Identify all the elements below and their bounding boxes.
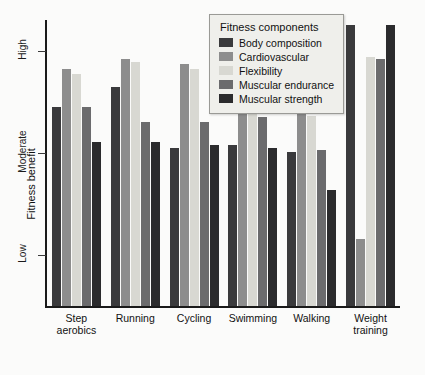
legend-entry: Muscular endurance [219,78,334,91]
bar [366,57,375,306]
bar [376,59,385,306]
bar [141,122,150,306]
fitness-benefit-bar-chart: Fitness benefit HighModerateLow Step aer… [0,0,425,375]
bar [52,107,61,306]
y-axis-tick-label: High [17,19,28,79]
y-axis-tick [38,153,46,154]
y-axis-tick-label: Moderate [17,121,28,181]
legend-entry: Body composition [219,36,334,49]
bar [287,152,296,306]
bar [258,117,267,306]
x-axis-category-label: Running [106,312,165,324]
legend-label: Body composition [239,37,322,49]
legend-swatch [219,80,233,89]
bar-group [52,20,101,306]
x-axis-line [45,306,400,308]
legend-title: Fitness components [219,21,334,33]
bar [386,25,395,306]
bar [180,64,189,306]
bar [82,107,91,306]
bar [327,190,336,306]
legend-label: Cardiovascular [239,51,309,63]
legend-swatch [219,52,233,61]
legend-swatch [219,94,233,103]
bar [210,145,219,306]
bar [346,25,355,306]
legend-entry: Cardiovascular [219,50,334,63]
y-axis-tick-label: Low [17,223,28,283]
bar [92,142,101,306]
x-axis-category-label: Cycling [165,312,224,324]
legend: Fitness components Body compositionCardi… [209,14,344,114]
legend-entries: Body compositionCardiovascularFlexibilit… [219,36,334,105]
legend-entry: Muscular strength [219,92,334,105]
y-axis-tick [38,51,46,52]
bar [268,148,277,306]
bar [62,69,71,306]
bar [190,69,199,306]
bar [121,59,130,306]
bar [317,150,326,306]
legend-label: Muscular strength [239,93,322,105]
bar [72,74,81,306]
bar-group [111,20,160,306]
y-axis-tick [38,255,46,256]
legend-entry: Flexibility [219,64,334,77]
x-axis-category-label: Step aerobics [47,312,106,336]
bar [297,107,306,306]
bar [228,145,237,306]
bar [200,122,209,306]
bar [111,87,120,306]
bar [170,148,179,306]
bar [307,116,316,306]
bar [356,239,365,306]
legend-label: Muscular endurance [239,79,334,91]
bar [151,142,160,306]
bar-group [346,20,395,306]
bar [131,62,140,306]
legend-swatch [219,66,233,75]
legend-label: Flexibility [239,65,282,77]
x-axis-category-label: Swimming [224,312,283,324]
x-axis-category-label: Weight training [341,312,400,336]
x-axis-category-label: Walking [282,312,341,324]
legend-swatch [219,38,233,47]
